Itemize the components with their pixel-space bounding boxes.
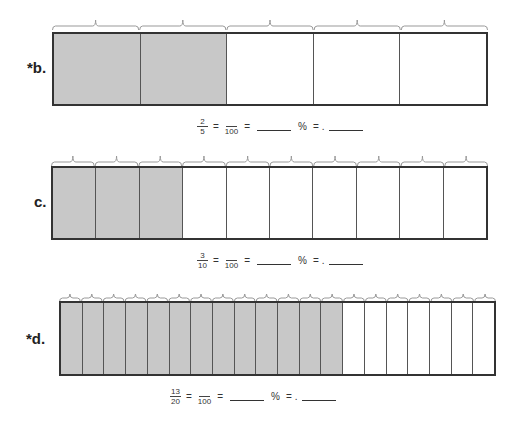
numerator-blank[interactable] [226, 118, 237, 127]
percent-blank[interactable] [257, 256, 291, 265]
shaded-segment [53, 168, 95, 238]
shaded-segment [147, 303, 169, 374]
percent-blank[interactable] [230, 392, 264, 401]
fraction-bar-b [52, 32, 488, 106]
shaded-segment [140, 34, 227, 104]
shaded-segment [277, 303, 299, 374]
shaded-segment [169, 303, 191, 374]
shaded-segment [95, 168, 138, 238]
unshaded-segment [386, 303, 408, 374]
unshaded-segment [443, 168, 486, 238]
unshaded-segment [313, 34, 400, 104]
shaded-segment [125, 303, 147, 374]
unshaded-segment [356, 168, 399, 238]
unshaded-segment [407, 303, 429, 374]
unshaded-segment [364, 303, 386, 374]
bracket-row-b [52, 19, 488, 31]
unshaded-segment [451, 303, 473, 374]
numerator-blank[interactable] [226, 252, 237, 261]
fraction: 13 20 [170, 387, 181, 406]
problem-label: *b. [27, 59, 46, 76]
hundredths-fraction: 100 [224, 252, 239, 270]
fraction: 3 10 [197, 251, 208, 270]
shaded-segment [234, 303, 256, 374]
unshaded-segment [342, 303, 364, 374]
equation-b: 2 5 = 100 = % = . [195, 117, 367, 136]
unshaded-segment [182, 168, 225, 238]
shaded-segment [320, 303, 342, 374]
unshaded-segment [472, 303, 494, 374]
fraction-bar-c [51, 166, 488, 240]
hundredths-fraction: 100 [197, 388, 212, 406]
fraction: 2 5 [197, 117, 208, 136]
problem-label: *d. [26, 330, 45, 347]
decimal-blank[interactable] [302, 392, 336, 401]
shaded-segment [299, 303, 321, 374]
shaded-segment [255, 303, 277, 374]
unshaded-segment [226, 34, 313, 104]
unshaded-segment [399, 34, 486, 104]
shaded-segment [139, 168, 182, 238]
percent-blank[interactable] [257, 122, 291, 131]
equation-d: 13 20 = 100 = % = . [168, 387, 340, 406]
decimal-blank[interactable] [329, 122, 363, 131]
hundredths-fraction: 100 [224, 118, 239, 136]
problem-label: c. [34, 193, 47, 210]
unshaded-segment [226, 168, 269, 238]
unshaded-segment [269, 168, 312, 238]
unshaded-segment [312, 168, 355, 238]
shaded-segment [212, 303, 234, 374]
shaded-segment [54, 34, 140, 104]
unshaded-segment [429, 303, 451, 374]
unshaded-segment [399, 168, 442, 238]
decimal-blank[interactable] [329, 256, 363, 265]
fraction-bar-d [59, 301, 496, 376]
shaded-segment [82, 303, 104, 374]
shaded-segment [190, 303, 212, 374]
shaded-segment [61, 303, 82, 374]
numerator-blank[interactable] [199, 388, 210, 397]
brace-icon [52, 19, 488, 31]
equation-c: 3 10 = 100 = % = . [195, 251, 367, 270]
shaded-segment [103, 303, 125, 374]
